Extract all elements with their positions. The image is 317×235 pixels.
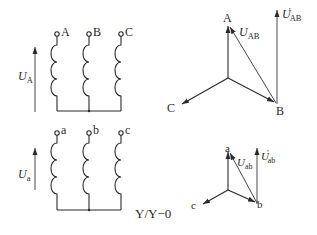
- phasor-B-label: B: [276, 104, 284, 118]
- connection-group-label: Y/Y−0: [135, 206, 171, 221]
- terminal-A-label: A: [61, 25, 70, 39]
- terminal-A-icon: [55, 32, 59, 36]
- hv-winding-c: [115, 32, 123, 111]
- hv-winding-group: A B C UA: [18, 25, 133, 112]
- terminal-b-label: b: [93, 123, 99, 137]
- hv-winding-a: [51, 32, 59, 111]
- phasor-a-label: a: [225, 142, 230, 154]
- lv-winding-a: [51, 131, 59, 210]
- lv-winding-b: [83, 131, 91, 210]
- lv-winding-c: [115, 131, 123, 210]
- hv-winding-b: [83, 32, 91, 111]
- hv-phasor-diagram: A B C UAB U′AB: [167, 6, 302, 118]
- terminal-C-label: C: [125, 25, 133, 39]
- phasor-b-label: b: [257, 198, 263, 210]
- terminal-B-label: B: [93, 25, 101, 39]
- terminal-a-icon: [55, 131, 59, 135]
- terminal-a-label: a: [61, 123, 67, 137]
- phasor-c-label: c: [191, 199, 196, 211]
- phasor-uab-prime-label: U′ab: [261, 148, 275, 165]
- lv-winding-group: a b c Ua: [18, 123, 130, 211]
- terminal-b-icon: [87, 131, 91, 135]
- hv-voltage-label: UA: [18, 69, 34, 85]
- terminal-C-icon: [119, 32, 123, 36]
- phasor-A-label: A: [223, 11, 232, 25]
- hv-neutral-junction: [88, 110, 90, 112]
- terminal-c-icon: [119, 131, 123, 135]
- phasor-uab-label: Uab: [237, 156, 253, 171]
- lv-neutral-junction: [88, 209, 90, 211]
- phasor-C-label: C: [167, 101, 175, 115]
- lv-voltage-label: Ua: [18, 167, 31, 183]
- terminal-c-label: c: [125, 123, 130, 137]
- phasor-UAB-label: UAB: [239, 25, 260, 41]
- phasor-oc-arrow-icon: [203, 190, 228, 204]
- terminal-B-icon: [87, 32, 91, 36]
- phasor-UAB-prime-label: U′AB: [282, 6, 302, 23]
- transformer-diagram: A B C UA A B C UAB U′AB: [0, 0, 317, 235]
- lv-phasor-diagram: a b c Uab U′ab: [191, 142, 275, 211]
- phasor-OC-arrow-icon: [182, 78, 228, 104]
- phasor-OB-arrow-icon: [228, 78, 274, 102]
